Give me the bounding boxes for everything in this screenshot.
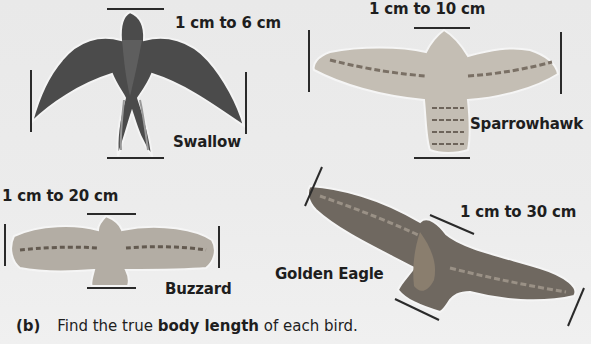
question-text-before: Find the true — [57, 317, 157, 335]
golden-eagle-scale-label: 1 cm to 30 cm — [460, 203, 576, 221]
question-label: (b) — [16, 317, 40, 335]
question-text-bold: body length — [158, 317, 259, 335]
question-text-after: of each bird. — [259, 317, 358, 335]
golden-eagle-name-label: Golden Eagle — [275, 265, 384, 283]
question-text: (b) Find the true body length of each bi… — [16, 317, 358, 335]
golden-eagle-illustration-icon — [0, 0, 591, 344]
